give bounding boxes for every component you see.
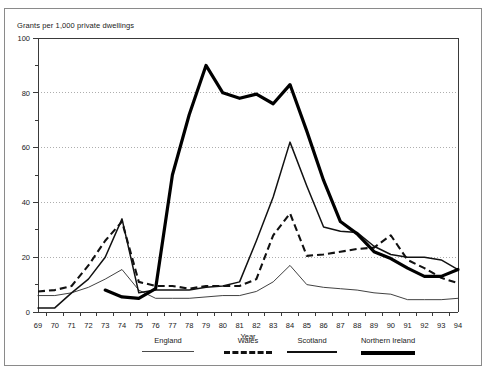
x-tick-label-79: 79 bbox=[202, 321, 210, 330]
x-tick-label-78: 78 bbox=[185, 321, 193, 330]
x-tick-label-72: 72 bbox=[84, 321, 92, 330]
x-tick-label-69: 69 bbox=[34, 321, 42, 330]
x-tick-label-77: 77 bbox=[168, 321, 176, 330]
legend-label-england: England bbox=[123, 336, 213, 345]
y-tick-label-80: 80 bbox=[22, 89, 30, 98]
x-tick-label-80: 80 bbox=[219, 321, 227, 330]
series-line-wales bbox=[38, 213, 458, 291]
x-tick-label-82: 82 bbox=[252, 321, 260, 330]
x-tick-label-70: 70 bbox=[51, 321, 59, 330]
legend-swatch-wales bbox=[224, 351, 272, 354]
y-tick-label-0: 0 bbox=[26, 308, 30, 317]
x-tick-label-76: 76 bbox=[151, 321, 159, 330]
legend-item-england: England bbox=[123, 336, 213, 352]
legend-label-northern-ireland: Northern Ireland bbox=[343, 336, 433, 345]
y-tick-label-100: 100 bbox=[17, 34, 30, 43]
legend-item-northern-ireland: Northern Ireland bbox=[343, 336, 433, 355]
legend-swatch-northern-ireland bbox=[361, 351, 415, 355]
x-tick-label-84: 84 bbox=[286, 321, 294, 330]
line-chart-svg: 0204060801006970717273747576777879808182… bbox=[0, 0, 488, 374]
x-tick-label-71: 71 bbox=[67, 321, 75, 330]
x-tick-label-94: 94 bbox=[454, 321, 462, 330]
x-tick-label-74: 74 bbox=[118, 321, 126, 330]
y-tick-label-20: 20 bbox=[22, 253, 30, 262]
chart-plot-area: 0204060801006970717273747576777879808182… bbox=[0, 0, 488, 374]
x-tick-label-86: 86 bbox=[319, 321, 327, 330]
y-tick-label-40: 40 bbox=[22, 198, 30, 207]
series-line-northern-ireland bbox=[105, 65, 458, 298]
chart-legend: England Wales Scotland Northern Ireland bbox=[0, 336, 488, 366]
x-tick-label-81: 81 bbox=[235, 321, 243, 330]
x-tick-label-87: 87 bbox=[336, 321, 344, 330]
x-tick-label-90: 90 bbox=[387, 321, 395, 330]
x-tick-label-88: 88 bbox=[353, 321, 361, 330]
y-tick-label-60: 60 bbox=[22, 143, 30, 152]
legend-swatch-england bbox=[142, 351, 194, 352]
legend-swatch-scotland bbox=[287, 351, 337, 353]
x-tick-label-91: 91 bbox=[403, 321, 411, 330]
x-tick-label-73: 73 bbox=[101, 321, 109, 330]
x-tick-label-93: 93 bbox=[437, 321, 445, 330]
x-tick-label-83: 83 bbox=[269, 321, 277, 330]
x-tick-label-85: 85 bbox=[303, 321, 311, 330]
x-tick-label-89: 89 bbox=[370, 321, 378, 330]
x-tick-label-92: 92 bbox=[420, 321, 428, 330]
x-tick-label-75: 75 bbox=[135, 321, 143, 330]
